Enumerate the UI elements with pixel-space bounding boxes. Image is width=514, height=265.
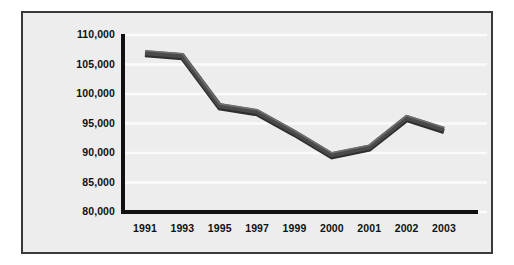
- chart-frame: 110,000105,000100,00095,00090,00085,0008…: [21, 11, 493, 254]
- line-chart-canvas: [23, 13, 491, 252]
- data-line-shadow: [145, 55, 444, 157]
- plot-panel: 110,000105,000100,00095,00090,00085,0008…: [23, 13, 491, 252]
- data-line-group: [145, 51, 444, 157]
- figure-root: 110,000105,000100,00095,00090,00085,0008…: [0, 0, 514, 265]
- data-line-body: [145, 53, 444, 155]
